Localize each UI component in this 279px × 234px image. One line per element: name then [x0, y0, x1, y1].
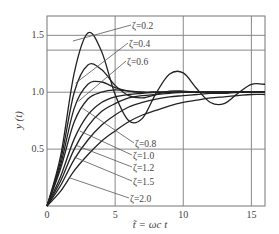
- y-tick-label: 1.0: [32, 86, 45, 97]
- leader-line: [76, 43, 128, 83]
- zeta-label: ζ=0.6: [127, 57, 148, 68]
- x-tick-label: 0: [45, 209, 50, 220]
- response-curve: [47, 64, 265, 206]
- zeta-label: ζ=0.4: [129, 39, 150, 50]
- x-tick-label: 5: [113, 209, 118, 220]
- response-curve: [47, 32, 265, 206]
- response-curves: [47, 32, 265, 206]
- y-axis-ticks: 0.51.01.5: [32, 29, 45, 154]
- x-axis-label: ̃t = ωc t: [133, 218, 168, 230]
- x-tick-label: 15: [246, 209, 256, 220]
- leader-line: [74, 157, 132, 181]
- y-tick-label: 1.5: [32, 29, 45, 40]
- zeta-label: ζ=1.5: [133, 177, 154, 188]
- zeta-label: ζ=0.2: [132, 21, 153, 32]
- zeta-label: ζ=0.8: [135, 139, 156, 150]
- zeta-labels: ζ=0.2ζ=0.4ζ=0.6ζ=0.8ζ=1.0ζ=1.2ζ=1.5ζ=2.0: [127, 21, 156, 205]
- zeta-label: ζ=2.0: [130, 194, 151, 205]
- y-axis-label: y (t): [12, 111, 25, 130]
- y-tick-label: 0.5: [32, 143, 45, 154]
- zeta-label: ζ=1.0: [133, 151, 154, 162]
- leader-line: [73, 25, 131, 41]
- x-tick-label: 10: [178, 209, 188, 220]
- step-response-chart: 051015 0.51.01.5 ζ=0.2ζ=0.4ζ=0.6ζ=0.8ζ=1…: [0, 0, 279, 234]
- leader-line: [69, 178, 129, 198]
- leader-line: [80, 131, 132, 155]
- zeta-label: ζ=1.2: [133, 163, 154, 174]
